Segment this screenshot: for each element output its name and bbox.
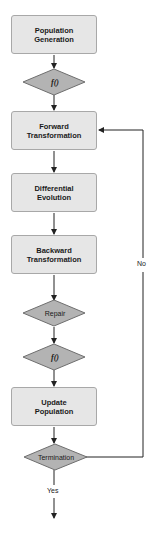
edge-label-yes: Yes — [47, 487, 58, 494]
decision-evaluate-1-label: f() — [24, 69, 86, 95]
process-backward-transformation: Backward Transformation — [11, 235, 97, 274]
decision-termination-label: Termination — [25, 444, 87, 470]
decision-evaluate-2-label: f() — [24, 344, 86, 370]
process-update-population: Update Population — [11, 387, 97, 426]
edge-label-no: No — [137, 260, 146, 267]
no-feedback-loop-upper — [99, 130, 143, 258]
process-forward-transformation: Forward Transformation — [11, 111, 97, 150]
process-population-generation: Population Generation — [11, 15, 97, 54]
decision-repair-label: Repair — [24, 300, 86, 326]
process-differential-evolution: Differential Evolution — [11, 173, 97, 212]
no-feedback-loop — [86, 272, 143, 457]
